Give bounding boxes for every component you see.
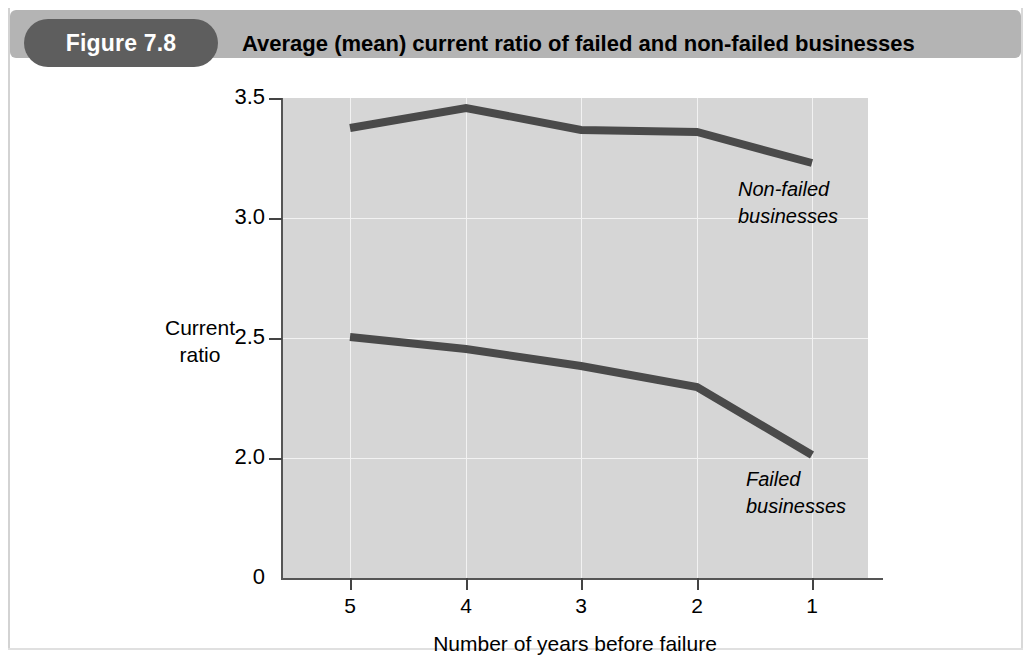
x-tick-mark-4 (466, 578, 468, 590)
x-axis-title: Number of years before failure (282, 632, 868, 656)
x-tick-label-2: 2 (677, 594, 717, 618)
x-tick-mark-1 (812, 578, 814, 590)
annotation-failed-line2: businesses (746, 493, 846, 520)
y-tick-label-0: 0 (205, 564, 265, 590)
x-tick-mark-5 (350, 578, 352, 590)
y-tick-label-3-5: 3.5 (205, 84, 265, 110)
annotation-non-failed-line1: Non-failed (738, 176, 838, 203)
y-tick-mark-2-5 (269, 338, 282, 340)
y-tick-mark-3-5 (269, 98, 282, 100)
x-tick-mark-2 (697, 578, 699, 590)
figure-number-label: Figure 7.8 (66, 30, 177, 57)
chart-canvas: Non-failed businesses Failed businesses … (0, 62, 1031, 658)
x-tick-label-3: 3 (561, 594, 601, 618)
x-tick-label-4: 4 (446, 594, 486, 618)
y-tick-mark-3-0 (269, 218, 282, 220)
annotation-non-failed-line2: businesses (738, 203, 838, 230)
y-axis-title-line2: ratio (140, 341, 260, 368)
y-tick-label-3-0: 3.0 (205, 204, 265, 230)
annotation-non-failed: Non-failed businesses (738, 176, 838, 230)
series-line-failed (350, 337, 812, 455)
x-tick-mark-3 (581, 578, 583, 590)
y-axis-title: Current ratio (140, 314, 260, 368)
x-tick-label-1: 1 (792, 594, 832, 618)
figure-header-bar: Figure 7.8 Average (mean) current ratio … (10, 10, 1021, 58)
annotation-failed-line1: Failed (746, 466, 846, 493)
x-tick-label-5: 5 (330, 594, 370, 618)
y-tick-mark-2-0 (269, 458, 282, 460)
figure-number-badge: Figure 7.8 (24, 19, 218, 67)
y-tick-label-2-0: 2.0 (205, 444, 265, 470)
series-line-non-failed (350, 108, 812, 163)
y-axis-title-line1: Current (140, 314, 260, 341)
figure-container: Figure 7.8 Average (mean) current ratio … (0, 0, 1031, 658)
plot-area: Non-failed businesses Failed businesses (282, 98, 868, 578)
annotation-failed: Failed businesses (746, 466, 846, 520)
figure-title: Average (mean) current ratio of failed a… (242, 20, 915, 68)
